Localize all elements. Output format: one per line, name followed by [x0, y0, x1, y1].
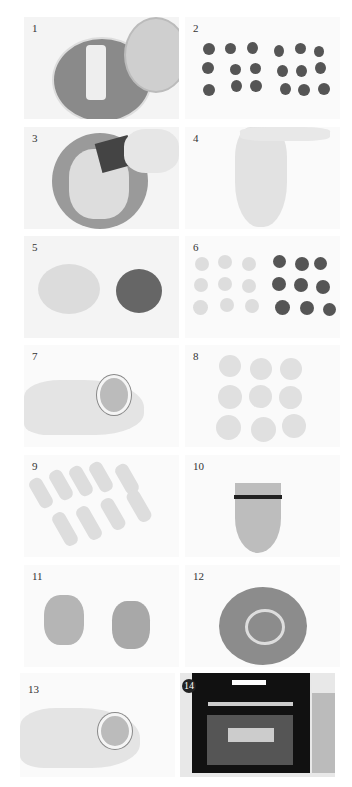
step-number: 1 [32, 22, 38, 34]
liquid-bowl [124, 17, 179, 93]
step-8-image: 8 [185, 345, 340, 447]
step-6-image: 6 [185, 236, 340, 338]
flat-dough [235, 483, 281, 553]
spiral-roll [112, 601, 150, 649]
step-3-image: 3 [24, 127, 179, 229]
step-number: 3 [32, 132, 38, 144]
step-11-image: 11 [24, 565, 179, 667]
baking-tray [228, 728, 274, 742]
step-1-image: 1 [24, 17, 179, 119]
stretchy-dough [235, 127, 287, 227]
spiral-roll [44, 595, 84, 645]
oven-display [232, 680, 266, 685]
step-12-image: 12 [185, 565, 340, 667]
light-dough [38, 264, 100, 314]
blade-column [86, 45, 106, 100]
step-7-image: 7 [24, 345, 179, 447]
dark-dough [116, 269, 162, 313]
step-14-image: 14 [180, 673, 335, 777]
step-4-image: 4 [185, 127, 340, 229]
step-number: 12 [193, 570, 204, 582]
step-number: 8 [193, 350, 199, 362]
hand [240, 127, 330, 141]
dough-wrap [98, 713, 132, 749]
step-number: 10 [193, 460, 204, 472]
step-9-image: 9 [24, 455, 179, 557]
step-number: 4 [193, 132, 199, 144]
step-number: 13 [28, 683, 39, 695]
oven-handle [208, 702, 293, 706]
step-number: 6 [193, 241, 199, 253]
step-number: 7 [32, 350, 38, 362]
rolling-pin [234, 495, 282, 499]
step-number: 5 [32, 241, 38, 253]
step-10-image: 10 [185, 455, 340, 557]
step-13-image: 13 [20, 673, 175, 777]
dough-wrap [97, 375, 131, 415]
step-number: 11 [32, 570, 43, 582]
step-5-image: 5 [24, 236, 179, 338]
step-2-image: 2 [185, 17, 340, 119]
step-number: 9 [32, 460, 38, 472]
hand [124, 129, 179, 173]
step-number: 2 [193, 22, 199, 34]
step-number: 14 [182, 679, 196, 693]
